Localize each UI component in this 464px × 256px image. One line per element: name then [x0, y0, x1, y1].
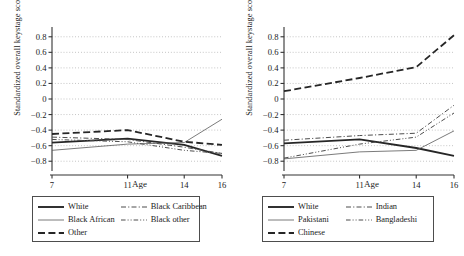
chart-panel-right: Standardized overall keystage score 0.80… — [232, 0, 464, 256]
y-tick-label: −0.8 — [31, 156, 47, 166]
legend-box-right: WhiteIndianPakistaniBangladeshiChinese — [262, 196, 434, 242]
legend-item-label: Black Caribbean — [151, 201, 207, 213]
y-tick-label: 0.8 — [36, 32, 47, 42]
y-tick-label: −0.4 — [31, 125, 47, 135]
legend-line-swatch — [268, 202, 294, 212]
legend-item-label: White — [298, 201, 318, 213]
legend-line-swatch — [38, 228, 64, 238]
plot-area-right: Standardized overall keystage score 0.80… — [232, 4, 464, 190]
legend-line-swatch — [346, 202, 372, 212]
x-axis-label-left: Age — [52, 179, 227, 189]
y-tick-label: 0.6 — [268, 47, 279, 57]
legend-items-right: WhiteIndianPakistaniBangladeshiChinese — [268, 201, 428, 239]
legend-line-swatch — [121, 202, 147, 212]
chart-svg-right: 0.80.60.40.20−0.2−0.4−0.6−0.87111416 — [232, 4, 464, 190]
y-tick-label: −0.6 — [31, 141, 47, 151]
y-tick-label: 0.2 — [36, 78, 47, 88]
series-line — [284, 105, 454, 140]
legend-item-label: Pakistani — [298, 214, 329, 226]
legend-item-label: Chinese — [298, 227, 325, 239]
legend-item: Pakistani — [268, 214, 340, 226]
y-tick-label: −0.4 — [263, 125, 279, 135]
y-tick-label: 0.4 — [36, 63, 47, 73]
legend-item-label: Indian — [376, 201, 397, 213]
legend-line-swatch — [268, 228, 294, 238]
y-tick-label: −0.2 — [263, 110, 279, 120]
legend-item: Chinese — [268, 227, 340, 239]
y-tick-label: 0.2 — [268, 78, 279, 88]
legend-item-label: Black African — [68, 214, 115, 226]
legend-item: Other — [38, 227, 115, 239]
y-tick-label: 0.6 — [36, 47, 47, 57]
legend-item-label: Black other — [151, 214, 190, 226]
x-axis-label-right: Age — [284, 179, 459, 189]
legend-item: Black African — [38, 214, 115, 226]
plot-area-left: Standardized overall keystage score 0.80… — [0, 4, 232, 190]
legend-item-label: Bangladeshi — [376, 214, 417, 226]
two-panel-line-chart-figure: Standardized overall keystage score 0.80… — [0, 0, 464, 256]
y-tick-label: −0.2 — [31, 110, 47, 120]
chart-panel-left: Standardized overall keystage score 0.80… — [0, 0, 232, 256]
legend-item-label: Other — [68, 227, 87, 239]
legend-item: White — [268, 201, 340, 213]
y-tick-label: −0.6 — [263, 141, 279, 151]
legend-item: White — [38, 201, 115, 213]
legend-line-swatch — [38, 215, 64, 225]
legend-items-left: WhiteBlack CaribbeanBlack AfricanBlack o… — [38, 201, 194, 239]
y-tick-label: 0.8 — [268, 32, 279, 42]
chart-svg-left: 0.80.60.40.20−0.2−0.4−0.6−0.87111416 — [0, 4, 232, 190]
series-line — [284, 35, 454, 91]
legend-line-swatch — [268, 215, 294, 225]
legend-item: Bangladeshi — [346, 214, 428, 226]
y-tick-label: −0.8 — [263, 156, 279, 166]
y-tick-label: 0.4 — [268, 63, 279, 73]
legend-line-swatch — [346, 215, 372, 225]
y-tick-label: 0 — [42, 94, 46, 104]
legend-item: Black Caribbean — [121, 201, 207, 213]
legend-item: Indian — [346, 201, 428, 213]
legend-box-left: WhiteBlack CaribbeanBlack AfricanBlack o… — [32, 196, 200, 242]
legend-item: Black other — [121, 214, 207, 226]
legend-item-label: White — [68, 201, 88, 213]
y-tick-label: 0 — [274, 94, 278, 104]
legend-line-swatch — [38, 202, 64, 212]
series-line — [52, 119, 222, 150]
legend-line-swatch — [121, 215, 147, 225]
